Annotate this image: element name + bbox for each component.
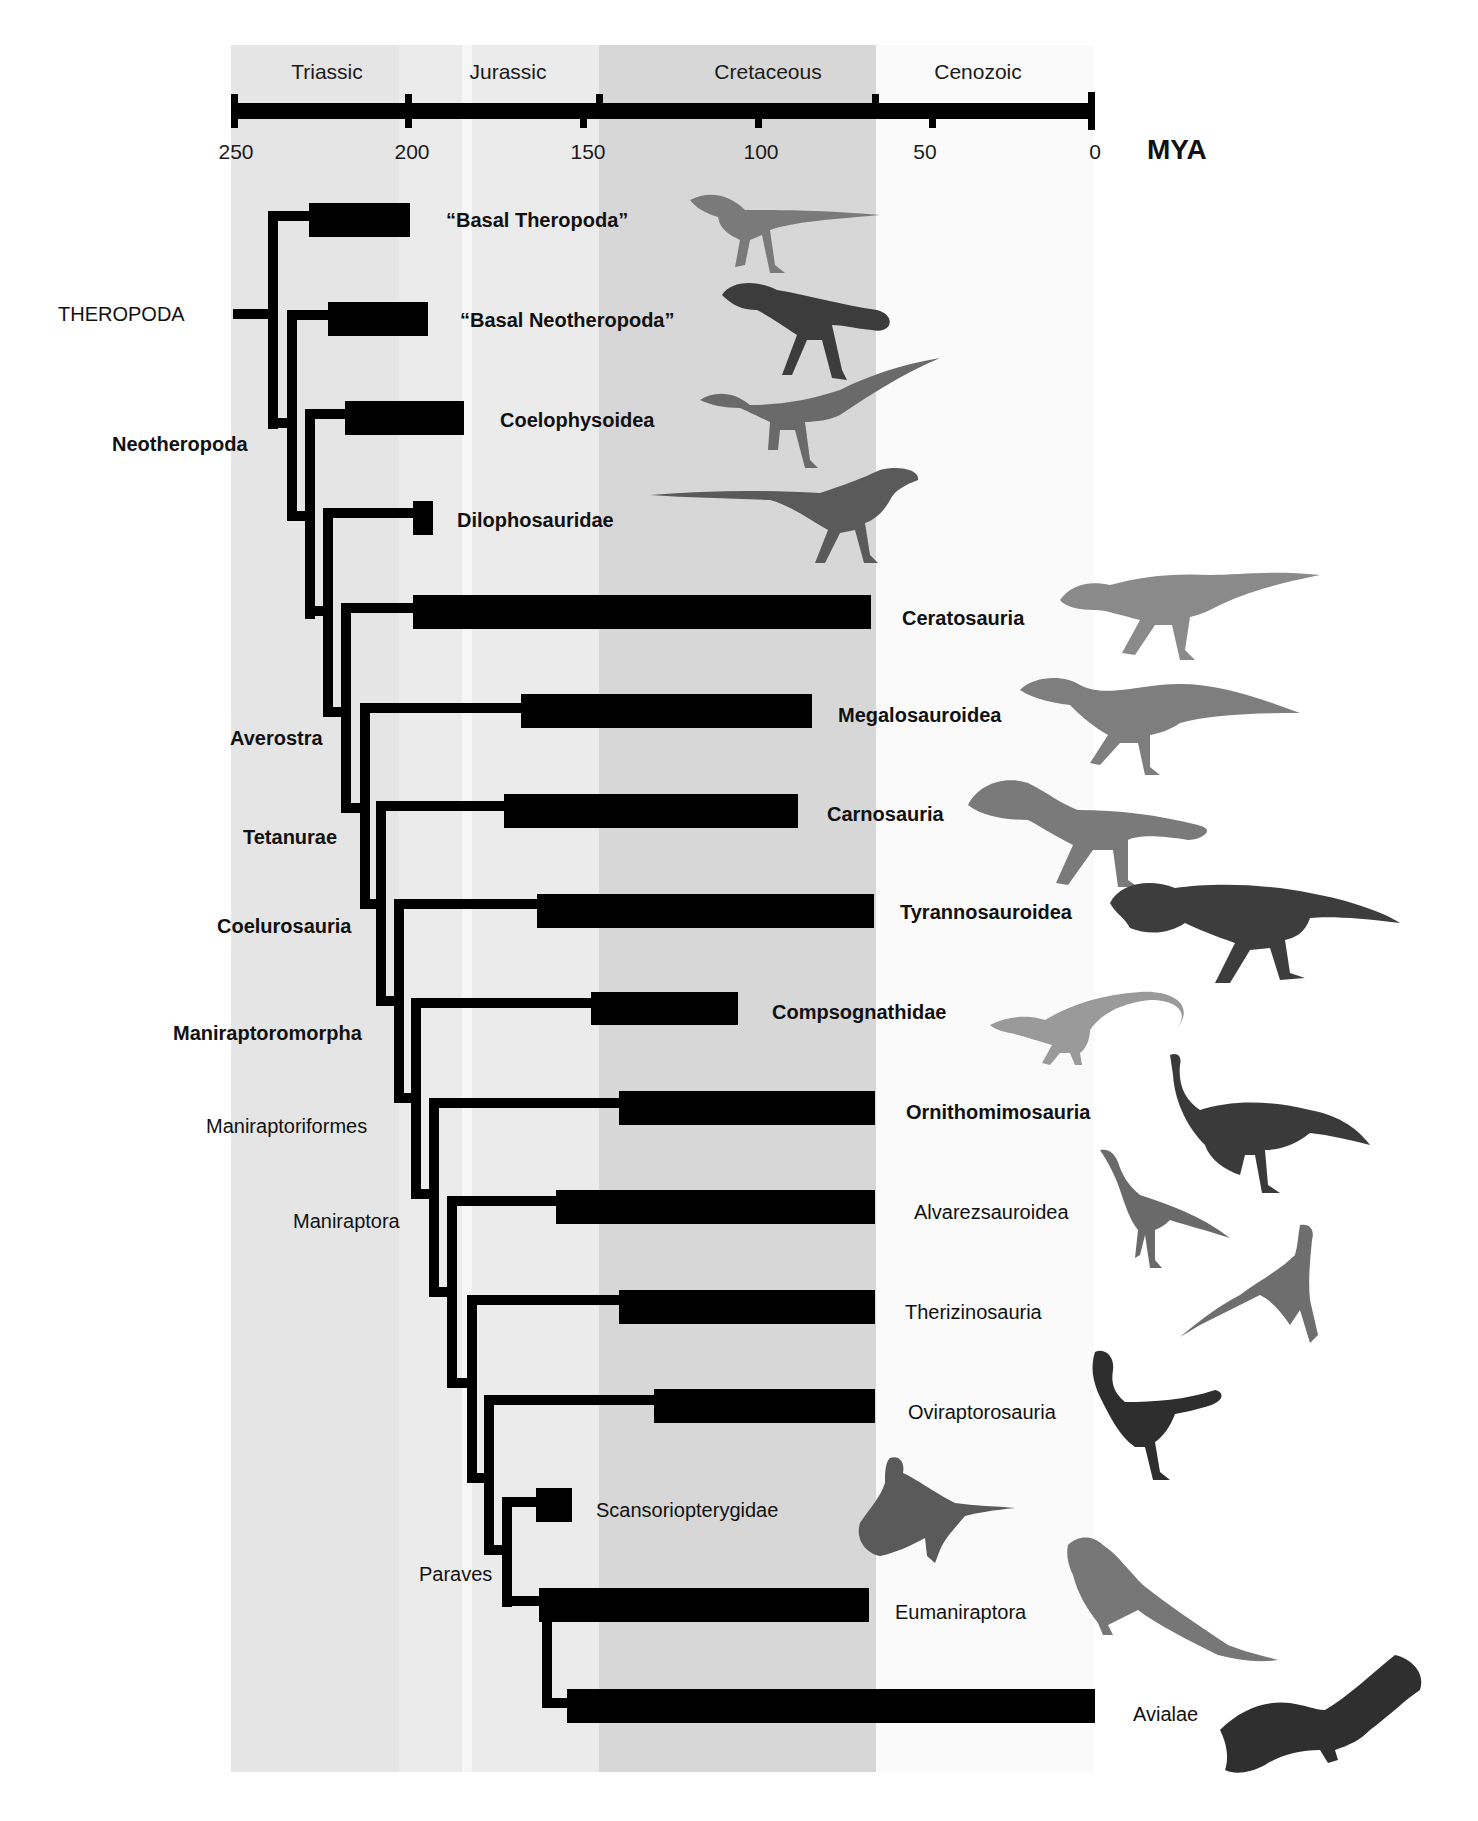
time-axis — [231, 92, 1095, 130]
taxon-label-ceratosauria: Ceratosauria — [902, 607, 1024, 630]
taxon-label-coelophysoidea: Coelophysoidea — [500, 409, 654, 432]
coelophysis-icon — [700, 358, 940, 468]
taxon-label-carnosauria: Carnosauria — [827, 803, 944, 826]
ceratosaurus-icon — [1060, 573, 1320, 660]
taxon-range-bars — [309, 203, 1095, 1723]
taxon-label-oviraptorosauria: Oviraptorosauria — [908, 1401, 1056, 1424]
bar-ornithomimosauria — [619, 1091, 875, 1125]
taxon-label-basal-neotheropoda: “Basal Neotheropoda” — [460, 309, 674, 332]
therizinosaurus-icon — [1180, 1225, 1318, 1343]
tree-branches — [233, 211, 655, 1708]
taxon-label-avialae: Avialae — [1133, 1703, 1198, 1726]
illustrations — [650, 195, 1421, 1773]
taxon-label-dilophosauridae: Dilophosauridae — [457, 509, 614, 532]
phylogeny-tree — [0, 0, 1478, 1821]
coelophysis-like-theropod-icon — [690, 195, 880, 273]
bar-ceratosauria — [413, 595, 871, 629]
bar-tyrannosauroidea — [537, 894, 874, 928]
scansoriopteryx-icon — [859, 1457, 1015, 1563]
ornithomimus-icon — [1170, 1054, 1370, 1193]
oviraptor-icon — [1093, 1351, 1222, 1480]
bar-dilophosauridae — [413, 501, 433, 535]
basal-neotheropod-icon — [722, 283, 890, 380]
megalosaurus-icon — [1020, 678, 1300, 775]
theropod-phylogeny-figure: Triassic Jurassic Cretaceous Cenozoic 25… — [0, 0, 1478, 1821]
bar-scansoriopterygidae — [536, 1488, 572, 1522]
bar-alvarezsauroidea — [556, 1190, 875, 1224]
bar-avialae — [567, 1689, 1095, 1723]
taxon-label-tyrannosauroidea: Tyrannosauroidea — [900, 901, 1072, 924]
taxon-label-compsognathidae: Compsognathidae — [772, 1001, 946, 1024]
tyrannosaurus-icon — [1110, 883, 1400, 983]
bar-carnosauria — [504, 794, 798, 828]
alvarezsaurus-icon — [1100, 1150, 1230, 1268]
bar-basal-neotheropoda — [328, 302, 428, 336]
taxon-label-alvarezsauroidea: Alvarezsauroidea — [914, 1201, 1069, 1224]
bar-therizinosauria — [619, 1290, 875, 1324]
taxon-label-megalosauroidea: Megalosauroidea — [838, 704, 1001, 727]
bar-basal-theropoda — [309, 203, 410, 237]
taxon-label-eumaniraptora: Eumaniraptora — [895, 1601, 1026, 1624]
bar-eumaniraptora — [539, 1588, 869, 1622]
taxon-label-therizinosauria: Therizinosauria — [905, 1301, 1042, 1324]
taxon-label-basal-theropoda: “Basal Theropoda” — [446, 209, 628, 232]
bar-oviraptorosauria — [654, 1389, 875, 1423]
allosaurus-icon — [968, 780, 1207, 887]
dilophosaurus-icon — [650, 468, 918, 563]
bar-coelophysoidea — [345, 401, 464, 435]
taxon-label-ornithomimosauria: Ornithomimosauria — [906, 1101, 1090, 1124]
microraptor-icon — [1067, 1538, 1278, 1662]
bar-compsognathidae — [591, 992, 738, 1025]
taxon-label-scansoriopterygidae: Scansoriopterygidae — [596, 1499, 778, 1522]
compsognathus-icon — [990, 992, 1184, 1065]
bird-of-prey-icon — [1220, 1655, 1421, 1773]
bar-megalosauroidea — [521, 694, 812, 728]
